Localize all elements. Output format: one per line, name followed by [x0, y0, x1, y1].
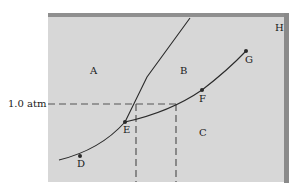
- point-d-label: D: [77, 159, 85, 169]
- point-f-marker: [200, 88, 204, 92]
- region-b-label: B: [180, 66, 187, 76]
- vaporization-curve: [125, 51, 246, 122]
- pressure-label: 1.0 atm: [8, 99, 47, 109]
- point-g-marker: [244, 49, 248, 53]
- sublimation-curve: [59, 122, 125, 160]
- region-h-label: H: [275, 23, 284, 33]
- point-e-label: E: [123, 125, 130, 135]
- point-g-label: G: [245, 55, 253, 65]
- phase-diagram-lines: [0, 0, 301, 193]
- point-f-label: F: [199, 94, 206, 104]
- region-a-label: A: [90, 66, 97, 76]
- region-c-label: C: [199, 128, 207, 138]
